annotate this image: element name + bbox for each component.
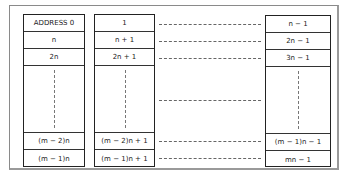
vertical-ellipsis-dash [125, 70, 126, 128]
cell-label: (m − 2)n + 1 [101, 137, 147, 145]
left-cell-4: (m − 2)n [24, 133, 84, 150]
left-cell-2: 2n [24, 49, 84, 66]
cell-label: (m − 1)n [38, 155, 70, 163]
left-cell-0: ADDRESS 0 [24, 15, 84, 32]
middle-cell-4: (m − 2)n + 1 [95, 133, 154, 150]
cell-label: n − 1 [288, 20, 307, 28]
right-cell-2: 3n − 1 [266, 50, 330, 67]
cell-label: (m − 1)n + 1 [101, 155, 147, 163]
middle-cell-1: n + 1 [95, 32, 154, 49]
left-cell-5: (m − 1)n [24, 150, 84, 167]
cell-label: 2n − 1 [286, 37, 310, 45]
middle-column: 1 n + 1 2n + 1 (m − 2)n + 1 (m − 1)n + 1 [94, 14, 155, 167]
cell-label: 2n + 1 [113, 53, 137, 61]
connector-row-1 [159, 41, 261, 42]
vertical-ellipsis-dash [54, 70, 55, 128]
left-cell-ellipsis [24, 66, 84, 133]
right-column: n − 1 2n − 1 3n − 1 (m − 1)n − 1 mn − 1 [265, 15, 331, 167]
middle-cell-0: 1 [95, 15, 154, 32]
right-cell-ellipsis [266, 67, 330, 134]
cell-label: mn − 1 [285, 156, 311, 164]
middle-cell-5: (m − 1)n + 1 [95, 150, 154, 167]
right-cell-1: 2n − 1 [266, 33, 330, 50]
middle-cell-ellipsis [95, 66, 154, 133]
cell-label: n [52, 36, 56, 44]
connector-row-0 [159, 24, 261, 25]
left-column: ADDRESS 0 n 2n (m − 2)n (m − 1)n [23, 14, 85, 167]
cell-label: (m − 1)n − 1 [275, 138, 321, 146]
connector-row-m-1 [159, 158, 261, 159]
right-cell-4: (m − 1)n − 1 [266, 134, 330, 151]
cell-label: 2n [50, 53, 59, 61]
cell-label: n + 1 [115, 36, 134, 44]
connector-row-2 [159, 58, 261, 59]
connector-ellipsis [159, 100, 261, 101]
right-cell-0: n − 1 [266, 16, 330, 33]
cell-label: 3n − 1 [286, 54, 310, 62]
connector-row-m-2 [159, 141, 261, 142]
cell-label: 1 [122, 19, 126, 27]
right-cell-5: mn − 1 [266, 151, 330, 168]
left-cell-1: n [24, 32, 84, 49]
vertical-ellipsis-dash [298, 71, 299, 129]
cell-label: (m − 2)n [38, 137, 70, 145]
middle-cell-2: 2n + 1 [95, 49, 154, 66]
cell-label: ADDRESS 0 [34, 19, 74, 27]
